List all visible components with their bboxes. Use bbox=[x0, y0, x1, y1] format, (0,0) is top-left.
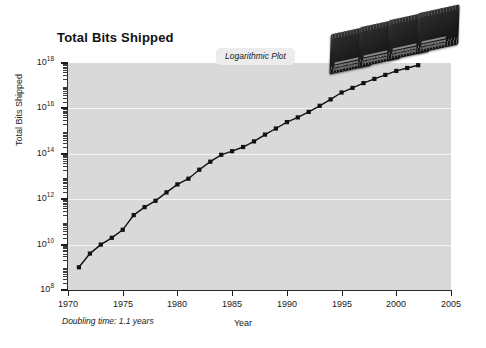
x-axis-tick-label: 2005 bbox=[431, 299, 471, 309]
y-axis-tick-minor bbox=[63, 201, 68, 202]
y-axis-tick-minor bbox=[63, 163, 68, 164]
y-axis-tick-minor bbox=[63, 89, 68, 90]
x-axis-tick-label: 1970 bbox=[48, 299, 88, 309]
x-axis-line bbox=[67, 290, 452, 291]
y-axis-tick-minor bbox=[63, 250, 68, 251]
y-axis-tick-minor bbox=[63, 111, 68, 112]
x-axis-tick bbox=[396, 291, 397, 296]
y-axis-tick-minor bbox=[63, 246, 68, 247]
y-axis-tick-minor bbox=[63, 98, 68, 99]
y-axis-tick-minor bbox=[63, 268, 68, 269]
y-axis-tick-minor bbox=[63, 93, 68, 94]
y-axis-tick-minor bbox=[63, 112, 68, 113]
y-axis-tick-minor bbox=[63, 136, 68, 137]
y-axis-tick-minor bbox=[63, 65, 68, 66]
x-axis-tick-label: 1975 bbox=[103, 299, 143, 309]
x-axis-tick-label: 2000 bbox=[376, 299, 416, 309]
y-axis-tick-minor bbox=[63, 159, 68, 160]
y-axis-tick-minor bbox=[63, 178, 68, 179]
y-axis-tick-minor bbox=[63, 227, 68, 228]
y-axis-tick-minor bbox=[63, 72, 68, 73]
y-axis-tick-minor bbox=[63, 254, 68, 255]
y-axis-tick-minor bbox=[63, 186, 68, 187]
y-axis-tick-minor bbox=[63, 124, 68, 125]
y-axis-tick-minor bbox=[63, 256, 68, 257]
y-axis-tick-minor bbox=[63, 113, 68, 114]
y-axis-tick-minor bbox=[63, 231, 68, 232]
y-axis-title: Total Bits Shipped bbox=[14, 26, 24, 146]
doubling-time-note: Doubling time: 1.1 years bbox=[62, 316, 154, 326]
y-axis-tick-minor bbox=[63, 225, 68, 226]
y-axis-tick-minor bbox=[63, 75, 68, 76]
y-axis-tick-minor bbox=[63, 117, 68, 118]
y-axis-tick-minor bbox=[63, 133, 68, 134]
y-axis-tick-minor bbox=[63, 238, 68, 239]
y-axis-tick-minor bbox=[63, 234, 68, 235]
y-axis-tick-minor bbox=[63, 251, 68, 252]
y-axis-tick-minor bbox=[63, 120, 68, 121]
y-axis-tick-minor bbox=[63, 208, 68, 209]
y-axis-tick-minor bbox=[63, 135, 68, 136]
x-axis-tick-label: 1985 bbox=[212, 299, 252, 309]
y-axis-tick-minor bbox=[63, 143, 68, 144]
y-axis-tick-minor bbox=[63, 274, 68, 275]
y-axis-tick-minor bbox=[63, 170, 68, 171]
y-axis-tick-minor bbox=[63, 67, 68, 68]
y-axis-tick-minor bbox=[63, 115, 68, 116]
y-axis-tick-label: 1010 bbox=[8, 239, 54, 249]
y-axis-tick-label: 1012 bbox=[8, 193, 54, 203]
y-axis-tick-minor bbox=[63, 132, 68, 133]
y-axis-tick-minor bbox=[63, 95, 68, 96]
y-axis-tick-minor bbox=[63, 147, 68, 148]
y-axis-tick-minor bbox=[63, 188, 68, 189]
y-axis-tick-minor bbox=[63, 271, 68, 272]
y-axis-tick-minor bbox=[63, 140, 68, 141]
y-axis-tick-minor bbox=[63, 156, 68, 157]
page-title: Total Bits Shipped bbox=[57, 30, 174, 45]
y-axis-tick-minor bbox=[63, 224, 68, 225]
y-axis-tick-minor bbox=[63, 223, 68, 224]
y-axis-tick-minor bbox=[63, 79, 68, 80]
y-axis-tick-minor bbox=[63, 102, 68, 103]
y-axis-tick-major bbox=[61, 289, 68, 291]
y-axis-tick-minor bbox=[63, 200, 68, 201]
y-axis-tick-minor bbox=[63, 283, 68, 284]
y-axis-tick-minor bbox=[63, 166, 68, 167]
y-axis-tick-minor bbox=[63, 87, 68, 88]
y-axis-tick-minor bbox=[63, 180, 68, 181]
y-axis-tick-minor bbox=[63, 192, 68, 193]
y-axis-tick-minor bbox=[63, 211, 68, 212]
x-axis-tick-label: 1980 bbox=[157, 299, 197, 309]
y-axis-tick-minor bbox=[63, 206, 68, 207]
y-axis-tick-minor bbox=[63, 138, 68, 139]
y-axis-tick-minor bbox=[63, 161, 68, 162]
y-axis-tick-minor bbox=[63, 203, 68, 204]
y-axis-tick-minor bbox=[63, 109, 68, 110]
y-axis-tick-minor bbox=[63, 248, 68, 249]
x-axis-tick bbox=[177, 291, 178, 296]
gridline bbox=[68, 108, 451, 109]
y-axis-tick-minor bbox=[63, 179, 68, 180]
chart-figure: Total Bits Shipped 108101010121014101610… bbox=[0, 0, 486, 348]
y-axis-tick-minor bbox=[63, 182, 68, 183]
dram-memory-chips bbox=[330, 4, 456, 66]
x-axis-tick bbox=[451, 291, 452, 296]
y-axis-tick-minor bbox=[63, 269, 68, 270]
x-axis-tick-label: 1990 bbox=[267, 299, 307, 309]
y-axis-tick-minor bbox=[63, 70, 68, 71]
x-axis-tick-label: 1995 bbox=[322, 299, 362, 309]
x-axis-tick bbox=[342, 291, 343, 296]
y-axis-tick-minor bbox=[63, 68, 68, 69]
y-axis-tick-minor bbox=[63, 260, 68, 261]
gridline bbox=[68, 154, 451, 155]
y-axis-tick-minor bbox=[63, 215, 68, 216]
y-axis-tick-minor bbox=[63, 64, 68, 65]
y-axis-tick-minor bbox=[63, 247, 68, 248]
x-axis-tick bbox=[287, 291, 288, 296]
y-axis-tick-minor bbox=[63, 91, 68, 92]
x-axis-tick bbox=[68, 291, 69, 296]
y-axis-tick-minor bbox=[63, 155, 68, 156]
gridline bbox=[68, 199, 451, 200]
y-axis-tick-minor bbox=[63, 183, 68, 184]
gridline bbox=[68, 245, 451, 246]
